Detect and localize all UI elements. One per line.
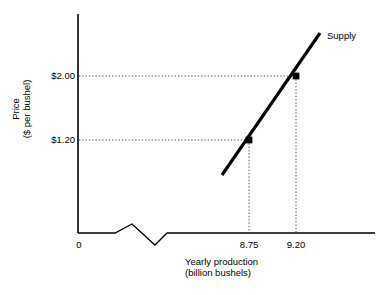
y-tick-label-2-00: $2.00	[51, 70, 75, 81]
x-tick-label-9-20: 9.20	[280, 239, 312, 250]
chart-plot-area	[0, 0, 387, 295]
x-axis-title: Yearly production (billion bushels)	[185, 256, 258, 278]
y-axis-title: Price ($ per bushel)	[10, 64, 32, 154]
supply-curve-chart: $2.00 $1.20 0 8.75 9.20 Yearly productio…	[0, 0, 387, 295]
x-tick-label-8-75: 8.75	[233, 239, 265, 250]
x-axis-line-with-break	[78, 224, 375, 245]
y-axis-title-line1: Price	[10, 98, 21, 120]
x-axis-title-line2: (billion bushels)	[185, 267, 258, 278]
series-label-supply: Supply	[327, 30, 356, 41]
x-axis-title-line1: Yearly production	[185, 256, 258, 267]
data-point-marker-8-75	[246, 137, 253, 144]
y-axis-title-wrapper: Price ($ per bushel)	[10, 64, 36, 154]
x-origin-label: 0	[74, 239, 84, 250]
supply-line	[222, 33, 320, 175]
data-point-marker-9-20	[293, 73, 300, 80]
y-axis-title-line2: ($ per bushel)	[21, 64, 32, 154]
y-tick-label-1-20: $1.20	[51, 134, 75, 145]
